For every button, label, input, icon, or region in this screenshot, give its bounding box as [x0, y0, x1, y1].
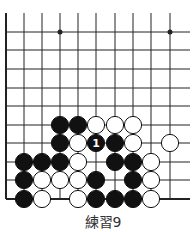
white-stone: [124, 134, 141, 151]
white-stone: [142, 171, 159, 188]
go-board: 1: [0, 0, 196, 210]
black-stone: [69, 116, 86, 133]
black-stone: [15, 171, 32, 188]
black-stone: [15, 153, 32, 170]
white-stone: [161, 134, 178, 151]
white-stone: [33, 171, 50, 188]
white-stone: [87, 116, 104, 133]
grid-lines: [6, 13, 190, 199]
white-stone: [51, 171, 68, 188]
black-stone: [106, 134, 123, 151]
black-stone: [124, 153, 141, 170]
white-stone: [33, 190, 50, 207]
white-stone: [124, 116, 141, 133]
white-stone: [69, 171, 86, 188]
black-stone: [87, 171, 104, 188]
black-stone: [51, 153, 68, 170]
black-stone: [124, 190, 141, 207]
black-stone: [33, 153, 50, 170]
white-stone: [69, 134, 86, 151]
white-stone: [106, 116, 123, 133]
black-stone: [51, 134, 68, 151]
black-stone: [106, 153, 123, 170]
black-stone: [124, 171, 141, 188]
black-stone: [51, 116, 68, 133]
black-stone: [106, 190, 123, 207]
black-stone: [15, 190, 32, 207]
white-stone: [69, 153, 86, 170]
white-stone: [142, 153, 159, 170]
white-stone: [69, 190, 86, 207]
move-number-label: 1: [92, 137, 100, 150]
black-stone: [87, 190, 104, 207]
diagram-caption: 練習9: [0, 211, 196, 231]
star-point: [168, 30, 173, 35]
star-point: [58, 30, 63, 35]
white-stone: [142, 190, 159, 207]
